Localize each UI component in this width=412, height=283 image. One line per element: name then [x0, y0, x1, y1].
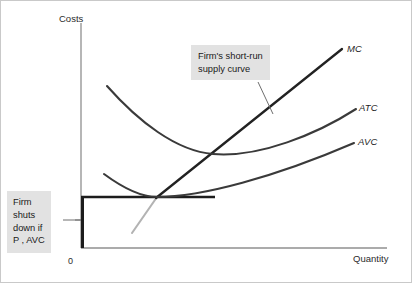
y-axis-label: Costs [59, 13, 83, 24]
x-axis-label: Quantity [353, 253, 388, 264]
origin-label: 0 [68, 256, 73, 267]
mc-inactive-segment [132, 197, 157, 233]
supply-curve-callout: Firm's short-run supply curve [191, 45, 270, 80]
avc-curve [104, 143, 354, 197]
cost-curve-figure: Costs Quantity 0 MC ATC AVC Firm's short… [0, 0, 412, 283]
avc-curve-label: AVC [358, 136, 378, 147]
atc-curve [107, 86, 356, 154]
mc-curve-label: MC [347, 43, 362, 54]
shutdown-callout: Firm shuts down if P , AVC [7, 191, 51, 253]
atc-curve-label: ATC [359, 102, 378, 113]
